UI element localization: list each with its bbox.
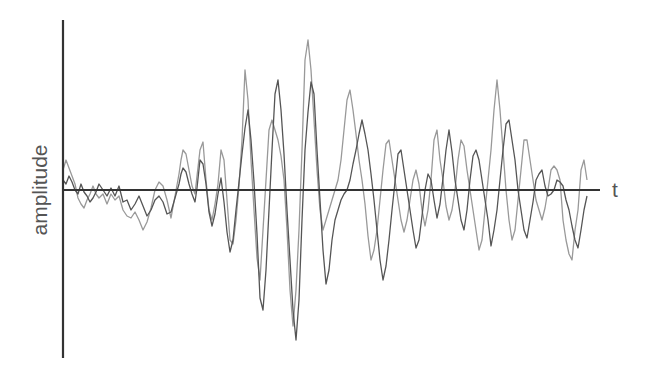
x-axis-label: t	[612, 178, 618, 202]
y-axis-label: amplitude	[28, 144, 52, 235]
waveform-chart	[0, 0, 652, 379]
waveform-series-b	[63, 40, 587, 326]
